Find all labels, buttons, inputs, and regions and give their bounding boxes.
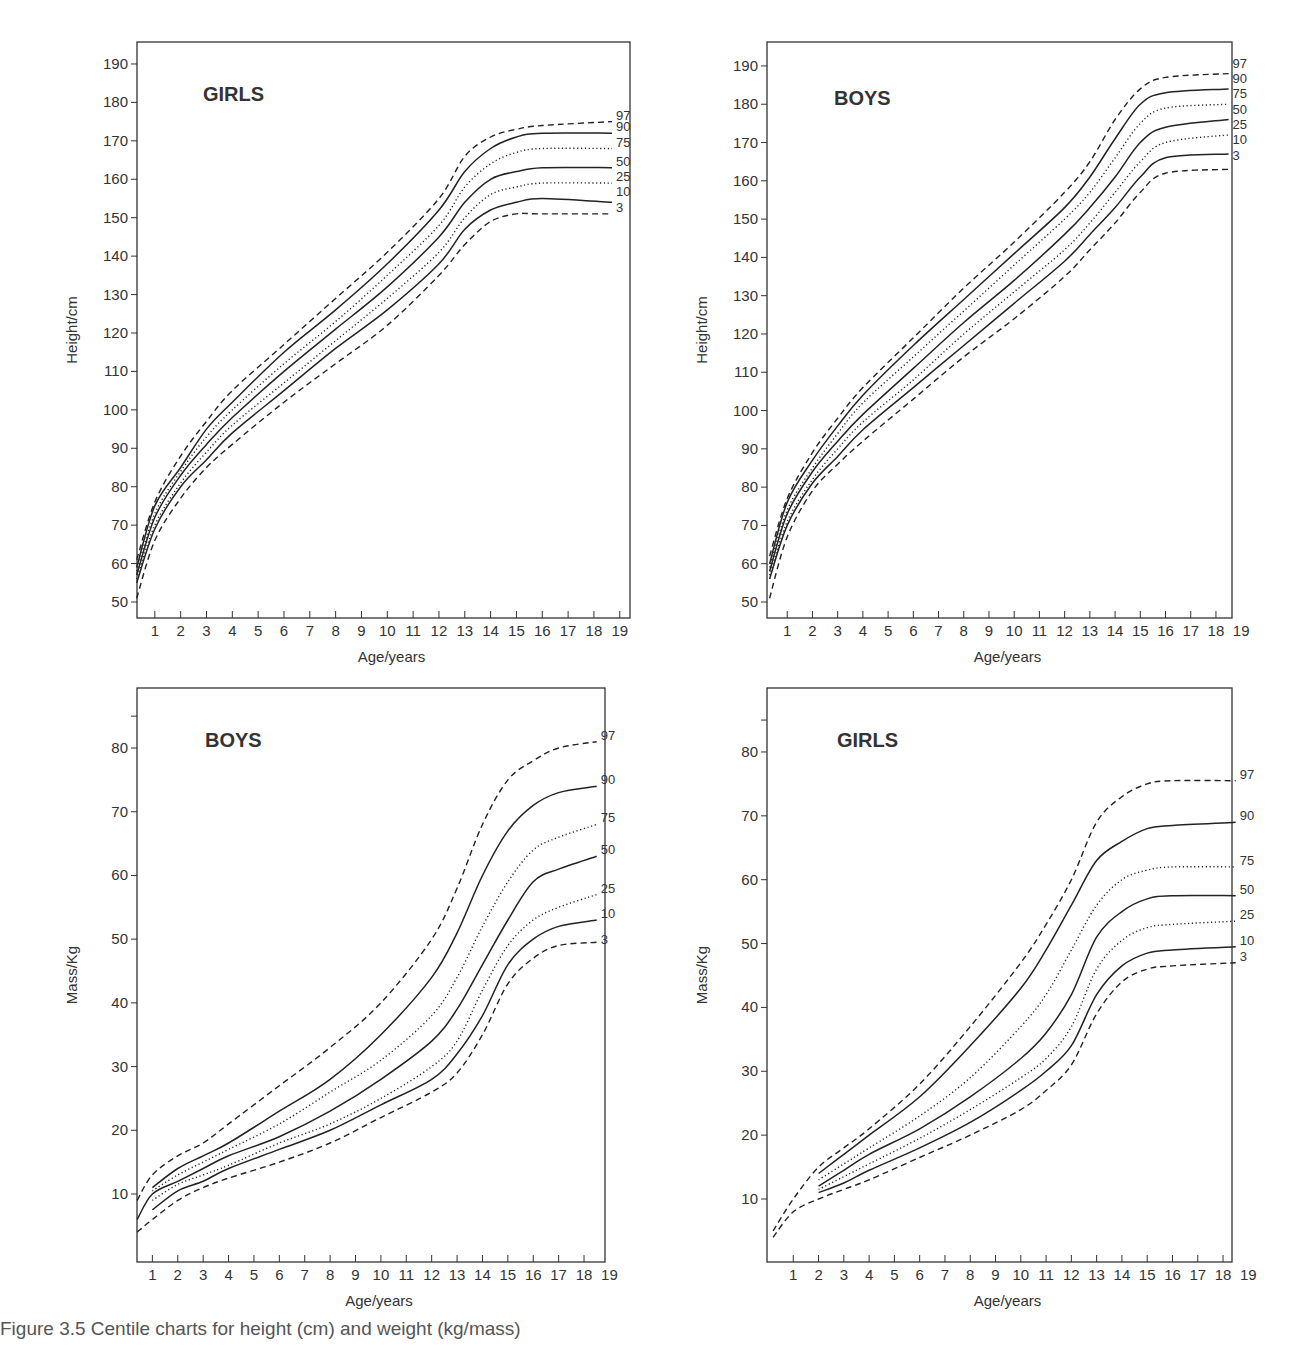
- x-tick-label: 9: [985, 622, 993, 639]
- x-tick-label: 8: [960, 622, 968, 639]
- y-axis-label: Mass/Kg: [63, 946, 80, 1004]
- x-tick-label: 17: [560, 622, 577, 639]
- y-tick-label: 60: [741, 555, 758, 572]
- centile-line-75: [770, 104, 1229, 567]
- centile-series: 9790755025103: [137, 728, 615, 1233]
- x-tick-label: 5: [254, 622, 262, 639]
- x-axis: 12345678910111213141516171819: [789, 1255, 1257, 1283]
- x-tick-label: 10: [373, 1266, 390, 1283]
- x-tick-label: 5: [884, 622, 892, 639]
- centile-label: 75: [601, 810, 615, 825]
- x-tick-label: 15: [1132, 622, 1149, 639]
- centile-line-25: [137, 183, 612, 579]
- x-tick-label: 10: [1012, 1266, 1029, 1283]
- y-tick-label: 90: [741, 440, 758, 457]
- x-tick-label: 12: [423, 1266, 440, 1283]
- y-tick-label: 30: [741, 1062, 758, 1079]
- x-tick-label: 16: [525, 1266, 542, 1283]
- y-axis-label: Height/cm: [63, 296, 80, 364]
- y-tick-label: 170: [103, 132, 128, 149]
- centile-line-25: [819, 921, 1236, 1189]
- chart-boys-mass: 1020304050607080123456789101112131415161…: [63, 688, 618, 1309]
- x-tick-label: 7: [301, 1266, 309, 1283]
- x-axis-label: Age/years: [345, 1292, 413, 1309]
- x-axis: 12345678910111213141516171819: [783, 611, 1249, 639]
- centile-line-50: [819, 895, 1236, 1186]
- y-tick-label: 80: [111, 478, 128, 495]
- centile-line-90: [152, 786, 596, 1187]
- x-tick-label: 13: [1082, 622, 1099, 639]
- y-tick-label: 190: [103, 55, 128, 72]
- x-tick-label: 6: [916, 1266, 924, 1283]
- y-axis-label: Mass/Kg: [693, 946, 710, 1004]
- y-tick-label: 120: [733, 325, 758, 342]
- y-tick-label: 60: [111, 555, 128, 572]
- centile-label: 75: [1240, 853, 1254, 868]
- x-tick-label: 1: [148, 1266, 156, 1283]
- x-tick-label: 7: [941, 1266, 949, 1283]
- x-tick-label: 17: [1182, 622, 1199, 639]
- x-tick-label: 15: [1139, 1266, 1156, 1283]
- y-tick-label: 50: [111, 593, 128, 610]
- y-tick-label: 40: [111, 994, 128, 1011]
- centile-label: 97: [601, 728, 615, 743]
- x-tick-label: 9: [357, 622, 365, 639]
- centile-line-50: [137, 856, 597, 1219]
- y-tick-label: 180: [733, 95, 758, 112]
- y-tick-label: 70: [741, 807, 758, 824]
- centile-label: 50: [1233, 102, 1247, 117]
- centile-line-50: [137, 167, 612, 575]
- x-tick-label: 6: [909, 622, 917, 639]
- x-tick-label: 14: [1107, 622, 1124, 639]
- centile-label: 25: [616, 169, 630, 184]
- x-axis: 12345678910111213141516171819: [148, 1255, 618, 1283]
- y-tick-label: 150: [103, 209, 128, 226]
- y-tick-label: 160: [103, 170, 128, 187]
- x-tick-label: 11: [405, 622, 421, 639]
- y-tick-label: 150: [733, 210, 758, 227]
- y-tick-label: 30: [111, 1058, 128, 1075]
- y-tick-label: 50: [741, 935, 758, 952]
- x-tick-label: 4: [859, 622, 867, 639]
- x-tick-label: 14: [482, 622, 499, 639]
- centile-label: 50: [1240, 882, 1254, 897]
- x-tick-label: 11: [399, 1266, 415, 1283]
- centile-label: 90: [1240, 808, 1254, 823]
- x-tick-label: 18: [586, 622, 603, 639]
- centile-label: 25: [1240, 907, 1254, 922]
- centile-label: 90: [1233, 71, 1247, 86]
- y-tick-label: 120: [103, 324, 128, 341]
- centile-label: 50: [616, 154, 630, 169]
- centile-label: 75: [616, 135, 630, 150]
- y-axis: 1020304050607080: [111, 716, 137, 1202]
- chart-title: BOYS: [834, 87, 891, 109]
- y-axis: 5060708090100110120130140150160170180190: [103, 55, 137, 610]
- centile-line-3: [137, 942, 597, 1232]
- centile-label: 10: [1233, 132, 1247, 147]
- x-tick-label: 3: [202, 622, 210, 639]
- y-tick-label: 190: [733, 57, 758, 74]
- x-tick-label: 16: [534, 622, 551, 639]
- x-tick-label: 16: [1164, 1266, 1181, 1283]
- x-tick-label: 2: [814, 1266, 822, 1283]
- centile-line-50: [770, 120, 1229, 572]
- x-tick-label: 18: [1208, 622, 1225, 639]
- x-tick-label: 5: [890, 1266, 898, 1283]
- x-tick-label: 14: [474, 1266, 491, 1283]
- x-tick-label: 12: [1063, 1266, 1080, 1283]
- centile-line-3: [770, 169, 1229, 598]
- x-tick-label: 4: [224, 1266, 232, 1283]
- centile-label: 10: [616, 184, 630, 199]
- x-tick-label: 1: [783, 622, 791, 639]
- x-tick-label: 16: [1157, 622, 1174, 639]
- y-tick-label: 100: [733, 402, 758, 419]
- centile-label: 75: [1233, 86, 1247, 101]
- y-tick-label: 80: [741, 478, 758, 495]
- centile-line-97: [137, 122, 612, 560]
- x-tick-label: 13: [449, 1266, 466, 1283]
- x-tick-label: 10: [379, 622, 396, 639]
- y-tick-label: 80: [741, 743, 758, 760]
- centile-line-3: [773, 963, 1236, 1238]
- y-tick-label: 10: [741, 1190, 758, 1207]
- centile-label: 97: [1233, 56, 1247, 71]
